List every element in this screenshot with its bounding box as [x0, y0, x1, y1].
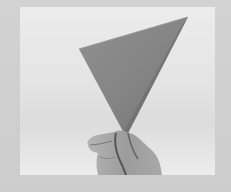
- hand: [87, 130, 162, 175]
- photograph: [20, 7, 215, 175]
- image-frame: [0, 0, 231, 192]
- paper-triangle-and-hand-illustration: [20, 7, 215, 175]
